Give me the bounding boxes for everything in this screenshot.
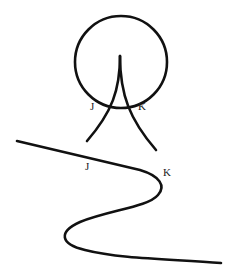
label-k-bottom: K: [163, 166, 171, 178]
bottom-diagram: J K: [17, 141, 221, 263]
label-j-bottom: J: [85, 160, 90, 172]
diagram-canvas: J K J K: [0, 0, 236, 277]
s-curve: [17, 141, 221, 263]
label-j-top: J: [90, 100, 95, 112]
top-diagram: J K: [75, 16, 167, 150]
label-k-top: K: [138, 100, 146, 112]
